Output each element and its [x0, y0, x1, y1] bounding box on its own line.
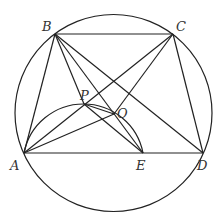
label-c: C: [176, 19, 186, 34]
label-d: D: [196, 158, 208, 173]
label-a: A: [9, 158, 19, 173]
label-b: B: [41, 19, 52, 34]
geometry-diagram: A B C D E P O: [0, 0, 223, 221]
segments: [24, 34, 203, 153]
label-p: P: [79, 88, 89, 103]
segment-ao: [24, 114, 114, 153]
segment-ab: [24, 34, 55, 153]
label-o: O: [117, 106, 128, 121]
label-e: E: [135, 158, 146, 173]
segment-cd: [173, 34, 203, 153]
